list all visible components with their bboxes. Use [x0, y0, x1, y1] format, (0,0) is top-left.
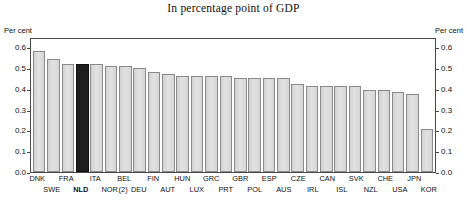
x-label-pol: POL: [247, 185, 262, 194]
bar-fin: [148, 72, 161, 172]
x-label-hun: HUN: [174, 174, 190, 183]
right-tickmark: [436, 173, 439, 174]
right-axis-unit-label: Per cent: [435, 26, 463, 35]
chart-title: In percentage point of GDP: [0, 2, 467, 14]
x-label-prt: PRT: [218, 185, 233, 194]
bar-series: [31, 39, 435, 172]
right-tick-0.1: 0.1: [441, 147, 465, 156]
x-label-deu: DEU: [131, 185, 147, 194]
x-axis-label-row-bottom: SWENLDNOR(2)DEUAUTLUXPRTPOLAUSIRLISLNZLU…: [30, 185, 436, 196]
right-tickmark: [436, 131, 439, 132]
x-label-dnk: DNK: [29, 174, 45, 183]
bar-kor: [421, 129, 434, 172]
bar-grc: [205, 76, 218, 172]
x-axis-label-row-top: DNKFRAITABELFINHUNGRCGBRESPCZECANSVKCHEJ…: [30, 174, 436, 185]
right-tickmark: [436, 69, 439, 70]
right-tick-0.6: 0.6: [441, 43, 465, 52]
x-label-aut: AUT: [160, 185, 175, 194]
right-tickmark: [436, 111, 439, 112]
bar-che: [378, 90, 391, 172]
right-tickmark: [436, 152, 439, 153]
bar-cze: [291, 84, 304, 172]
right-tick-0.0: 0.0: [441, 168, 465, 177]
bar-gbr: [234, 78, 247, 172]
x-label-gbr: GBR: [232, 174, 248, 183]
x-axis-labels: DNKFRAITABELFINHUNGRCGBRESPCZECANSVKCHEJ…: [30, 174, 436, 200]
left-tick-0.5: 0.5: [2, 64, 26, 73]
right-tick-0.4: 0.4: [441, 85, 465, 94]
x-label-jpn: JPN: [407, 174, 421, 183]
bar-isl: [334, 86, 347, 172]
plot-area: [30, 38, 436, 173]
x-label-ita: ITA: [90, 174, 101, 183]
bar-nld: [76, 64, 89, 172]
left-axis-unit-label: Per cent: [4, 26, 32, 35]
x-label-svk: SVK: [349, 174, 364, 183]
x-label-usa: USA: [392, 185, 407, 194]
bar-bel: [119, 66, 132, 172]
bar-irl: [306, 86, 319, 172]
x-label-swe: SWE: [43, 185, 60, 194]
bar-can: [320, 86, 333, 172]
bar-jpn: [406, 94, 419, 172]
x-label-isl: ISL: [336, 185, 347, 194]
chart-container: In percentage point of GDP Per cent Per …: [0, 0, 467, 201]
x-label-irl: IRL: [307, 185, 319, 194]
x-label-can: CAN: [319, 174, 335, 183]
left-tick-0.6: 0.6: [2, 43, 26, 52]
x-label-aus: AUS: [276, 185, 291, 194]
left-tick-0.2: 0.2: [2, 126, 26, 135]
right-tickmark: [436, 48, 439, 49]
bar-ita: [90, 64, 103, 172]
bar-hun: [176, 76, 189, 172]
x-label-che: CHE: [377, 174, 393, 183]
x-label-lux: LUX: [190, 185, 204, 194]
bar-dnk: [33, 51, 46, 172]
bar-pol: [248, 78, 261, 172]
left-tick-0.1: 0.1: [2, 147, 26, 156]
bar-esp: [263, 78, 276, 172]
x-label-fin: FIN: [147, 174, 159, 183]
right-tick-0.3: 0.3: [441, 106, 465, 115]
bar-nor: [105, 66, 118, 172]
bar-usa: [392, 92, 405, 172]
bar-aus: [277, 78, 290, 172]
x-label-footnote-marker: (2): [119, 185, 128, 194]
bar-nzl: [363, 90, 376, 172]
x-label-nld: NLD: [73, 185, 88, 194]
bar-prt: [220, 76, 233, 172]
bar-svk: [349, 86, 362, 172]
right-tickmark: [436, 90, 439, 91]
x-label-fra: FRA: [59, 174, 74, 183]
x-label-bel: BEL: [117, 174, 131, 183]
bar-deu: [133, 68, 146, 172]
x-label-nzl: NZL: [364, 185, 378, 194]
x-label-kor: KOR: [421, 185, 437, 194]
bar-lux: [191, 76, 204, 172]
left-tick-0.3: 0.3: [2, 106, 26, 115]
right-tick-0.2: 0.2: [441, 126, 465, 135]
left-tick-0.0: 0.0: [2, 168, 26, 177]
bar-swe: [47, 59, 60, 172]
right-tick-0.5: 0.5: [441, 64, 465, 73]
x-label-esp: ESP: [262, 174, 277, 183]
x-label-cze: CZE: [291, 174, 306, 183]
bar-fra: [62, 64, 75, 172]
x-label-nor: NOR: [102, 185, 118, 194]
x-label-grc: GRC: [203, 174, 219, 183]
left-tick-0.4: 0.4: [2, 85, 26, 94]
bar-aut: [162, 74, 175, 172]
